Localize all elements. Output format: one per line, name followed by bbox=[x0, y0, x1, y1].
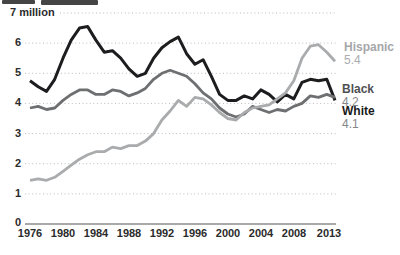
y-tick-label: 4 bbox=[0, 96, 21, 109]
y-tick-label: 7 million bbox=[10, 6, 55, 19]
y-tick-label: 1 bbox=[0, 187, 21, 200]
x-tick-label: 2008 bbox=[282, 227, 306, 239]
y-tick-label: 6 bbox=[0, 36, 21, 49]
chart-svg bbox=[0, 0, 400, 255]
x-tick-label: 1976 bbox=[18, 227, 42, 239]
y-tick-label: 2 bbox=[0, 157, 21, 170]
x-tick-label: 1988 bbox=[117, 227, 141, 239]
x-tick-label: 1984 bbox=[84, 227, 108, 239]
y-tick-label: 3 bbox=[0, 127, 21, 140]
x-tick-label: 2000 bbox=[216, 227, 240, 239]
y-tick-label: 5 bbox=[0, 66, 21, 79]
x-tick-label: 2013 bbox=[317, 227, 341, 239]
x-tick-label: 1996 bbox=[183, 227, 207, 239]
x-tick-label: 1992 bbox=[150, 227, 174, 239]
x-tick-label: 2004 bbox=[249, 227, 273, 239]
chart-figure: 7 million 6 5 4 3 2 1 0 1976 1980 1984 1… bbox=[0, 0, 400, 255]
x-tick-label: 1980 bbox=[51, 227, 75, 239]
